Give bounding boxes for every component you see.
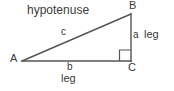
hypotenuse-line — [22, 14, 131, 61]
hypotenuse-word-label: hypotenuse — [27, 4, 89, 16]
leg-b-letter-label: b — [67, 62, 73, 72]
hypotenuse-letter-label: c — [61, 27, 66, 37]
right-angle-marker — [120, 50, 132, 61]
vertex-label-c: C — [128, 62, 136, 73]
leg-a-word-label: leg — [144, 29, 159, 40]
leg-b-word-label: leg — [61, 73, 76, 84]
vertex-label-a: A — [10, 53, 17, 64]
vertex-label-b: B — [129, 0, 136, 11]
right-triangle-diagram: hypotenuse B c a leg C A b leg — [0, 0, 174, 91]
leg-a-letter-label: a — [133, 30, 139, 40]
